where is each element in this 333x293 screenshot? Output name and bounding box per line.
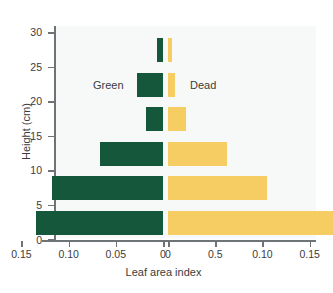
bar-green-25-30 (157, 38, 163, 62)
x-tick (69, 241, 71, 247)
plot-area (54, 26, 316, 238)
legend-swatch-green (137, 73, 163, 97)
legend-item-dead: Dead (190, 79, 216, 91)
y-axis-title: Height (cm) (20, 103, 32, 160)
x-axis-line (42, 240, 316, 242)
y-tick-label: 25 (18, 62, 42, 72)
y-tick-label: 5 (18, 200, 42, 210)
x-tick-label: 0.10 (245, 249, 279, 260)
bar-green-15-20 (146, 107, 163, 131)
x-tick (215, 241, 217, 247)
x-tick (21, 241, 23, 247)
legend-label-dead: Dead (190, 79, 216, 91)
y-tick-label: 10 (18, 165, 42, 175)
legend-swatch-dead (168, 73, 175, 97)
x-tick-label: 0.10 (52, 249, 86, 260)
x-tick (262, 241, 264, 247)
x-axis-title: Leaf area index (0, 266, 327, 278)
bar-green-0-5 (36, 211, 163, 235)
plot-background (54, 26, 316, 238)
y-tick-label: 30 (18, 27, 42, 37)
y-tick (48, 32, 54, 34)
x-tick (310, 241, 312, 247)
x-tick-label: 0.05 (99, 249, 133, 260)
y-axis-line (54, 26, 56, 240)
y-tick (48, 101, 54, 103)
x-tick-label: 0.15 (4, 249, 38, 260)
x-tick (163, 241, 165, 247)
x-tick-label: 0.15 (293, 249, 327, 260)
y-tick (48, 136, 54, 138)
legend-item-green: Green (93, 79, 124, 91)
bar-dead-0-5 (168, 211, 333, 235)
legend-label-green: Green (93, 79, 124, 91)
x-tick-label: 0.5 (198, 249, 232, 260)
y-tick (48, 205, 54, 207)
y-tick (48, 170, 54, 172)
x-tick (116, 241, 118, 247)
bar-dead-25-30 (168, 38, 172, 62)
y-tick (48, 67, 54, 69)
bar-dead-10-15 (168, 142, 227, 166)
x-tick-label: 0 (151, 249, 185, 260)
bar-green-10-15 (100, 142, 163, 166)
y-tick (48, 239, 54, 241)
bar-green-5-10 (52, 176, 163, 200)
bar-dead-5-10 (168, 176, 267, 200)
bar-dead-15-20 (168, 107, 186, 131)
x-tick (168, 241, 170, 247)
